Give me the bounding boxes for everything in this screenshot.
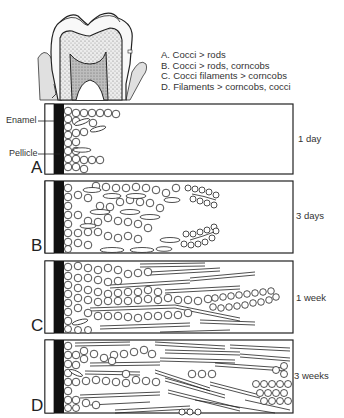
time-label-b: 3 days [296,210,324,221]
panel-c [45,261,293,334]
panel-b [45,181,293,253]
panel-letter-b: B [31,236,42,256]
tooth-illustration [38,13,147,100]
legend-item-a: A. Cocci > rods [161,50,291,61]
panel-letter-a: A [31,158,42,178]
panel-letter-d: D [31,396,43,416]
legend-item-d: D. Filaments > corncobs, cocci [161,82,291,93]
time-label-c: 1 week [296,292,326,303]
time-label-d: 3 weeks [294,370,329,381]
time-label-a: 1 day [298,133,321,144]
pellicle-label: Pellicle [9,148,38,158]
panel-letter-c: C [31,316,43,336]
legend-item-c: C. Cocci filaments > corncobs [161,71,291,82]
panel-d [45,340,293,415]
enamel-label: Enamel [6,115,37,125]
panel-a [45,104,293,174]
legend: A. Cocci > rods B. Cocci > rods, corncob… [161,50,291,92]
